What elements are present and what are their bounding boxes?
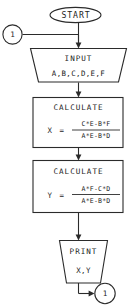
- connector-in-circle[interactable]: 1: [3, 25, 22, 44]
- calculate-y-denominator-label: A*E-B*D: [82, 197, 111, 205]
- calculate-x-denominator-label: A*E-B*D: [82, 132, 111, 140]
- connector-out-label: 1: [103, 289, 108, 298]
- edge-calculate-y-to-print: [76, 213, 82, 241]
- calculate-y-variable-label: Y: [48, 191, 53, 200]
- calculate-y-equals-sign: =: [60, 191, 65, 200]
- edge-calculate-x-to-calculate-y: [76, 148, 82, 161]
- print-header-label: PRINT: [70, 247, 98, 256]
- start-label: START: [61, 10, 90, 20]
- flowchart-diagram: 1 START INPUT A,B,C,D,E,F CALCULATE X = …: [0, 0, 135, 306]
- calculate-y-header-label: CALCULATE: [53, 167, 103, 176]
- calculate-y-node[interactable]: CALCULATE Y = A*F-C*D A*E-B*D: [33, 161, 123, 213]
- calculate-x-equals-sign: =: [60, 126, 65, 135]
- calculate-x-header-label: CALCULATE: [53, 103, 103, 112]
- input-variables-label: A,B,C,D,E,F: [52, 69, 105, 78]
- calculate-y-numerator-label: A*F-C*D: [82, 185, 111, 193]
- calculate-x-numerator-label: C*E-B*F: [82, 120, 111, 128]
- flowchart-canvas: 1 START INPUT A,B,C,D,E,F CALCULATE X = …: [0, 0, 135, 306]
- edge-print-to-connector-out: [79, 283, 95, 296]
- calculate-x-variable-label: X: [48, 126, 53, 135]
- start-terminator[interactable]: START: [50, 7, 101, 22]
- input-header-label: INPUT: [65, 54, 93, 63]
- calculate-x-node[interactable]: CALCULATE X = C*E-B*F A*E-B*D: [33, 98, 123, 148]
- edge-connector-in-to-input: [23, 35, 82, 49]
- connector-out-circle[interactable]: 1: [95, 283, 115, 303]
- connector-in-label: 1: [10, 30, 15, 39]
- input-node[interactable]: INPUT A,B,C,D,E,F: [31, 49, 127, 83]
- edge-input-to-calculate-x: [76, 83, 82, 98]
- print-variables-label: X,Y: [76, 266, 91, 275]
- print-node[interactable]: PRINT X,Y: [60, 241, 108, 284]
